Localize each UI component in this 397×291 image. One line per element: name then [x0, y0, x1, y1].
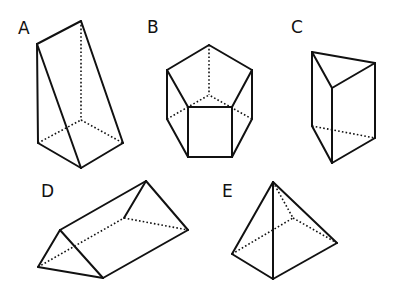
visible-edge [37, 44, 81, 168]
visible-edge [209, 45, 252, 70]
hidden-edge [312, 126, 375, 138]
shape-label-e: E [222, 181, 233, 201]
hidden-edge [273, 182, 293, 218]
visible-edge [232, 119, 252, 157]
visible-edge [232, 182, 273, 254]
shape-e-edges [232, 182, 337, 279]
shape-d-edges [38, 181, 188, 278]
shape-label-b: B [147, 17, 159, 37]
visible-edge [81, 143, 123, 168]
visible-edge [103, 230, 188, 278]
visible-edge [332, 63, 375, 88]
visible-edge [37, 44, 38, 143]
shape-label-a: A [18, 18, 30, 38]
visible-edge [312, 52, 375, 63]
shape-a: A [18, 18, 123, 168]
visible-edge [232, 70, 252, 107]
visible-edge [312, 52, 332, 88]
shape-c-edges [312, 52, 375, 163]
visible-edge [146, 181, 188, 230]
visible-edge [273, 182, 337, 243]
visible-edge [60, 181, 146, 230]
visible-edge [37, 21, 81, 44]
visible-edge [167, 45, 209, 70]
shape-label-c: C [291, 17, 303, 37]
shape-e: E [222, 181, 337, 279]
shape-b-edges [167, 45, 252, 157]
visible-edge [332, 138, 375, 163]
shape-b: B [147, 17, 252, 157]
hidden-edge [38, 218, 124, 267]
shape-c: C [291, 17, 375, 163]
solids-figure: A B C D E [0, 0, 397, 291]
shape-d: D [38, 181, 188, 278]
visible-edge [38, 267, 103, 278]
visible-edge [81, 21, 123, 143]
visible-edge [167, 119, 188, 157]
hidden-edge [38, 120, 81, 143]
visible-edge [60, 230, 103, 278]
visible-edge [273, 243, 337, 279]
visible-edge [232, 254, 273, 279]
visible-edge [312, 126, 332, 163]
shape-label-d: D [41, 181, 54, 201]
visible-edge [38, 143, 81, 168]
visible-edge [167, 70, 188, 107]
shape-a-edges [37, 21, 123, 168]
